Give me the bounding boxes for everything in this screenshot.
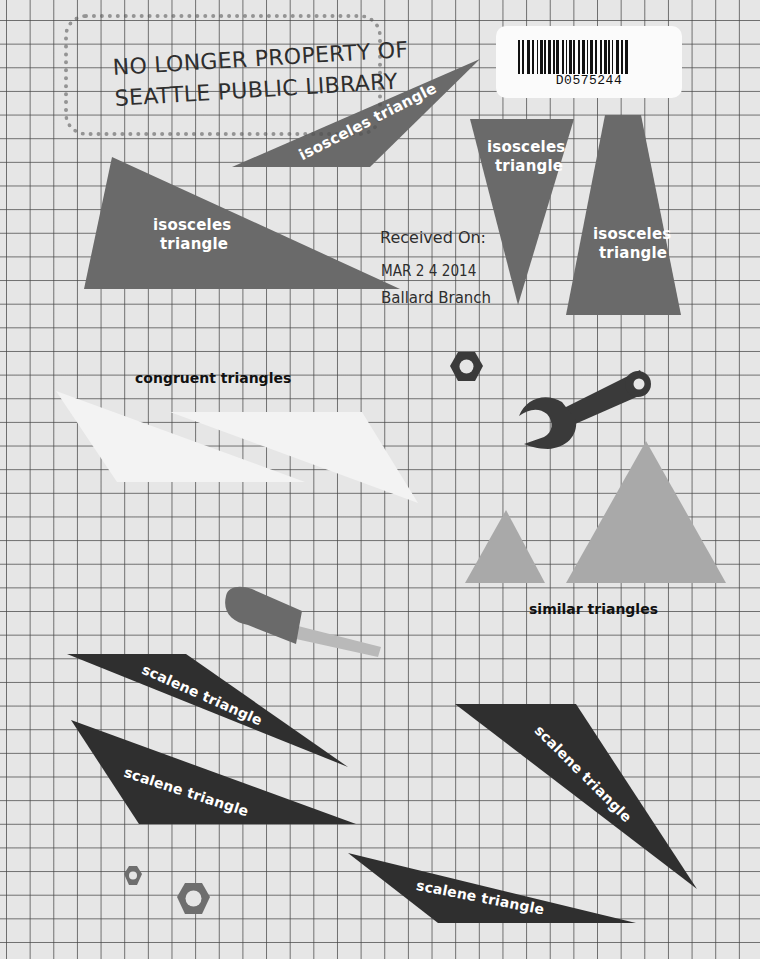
heading-congruent-triangles: congruent triangles [135, 370, 291, 386]
scalene-triangle-4 [348, 853, 636, 923]
book-cover: NO LONGER PROPERTY OF SEATTLE PUBLIC LIB… [0, 0, 760, 959]
label-isosceles-large-2: triangle [160, 235, 228, 253]
label-isosceles-large-1: isosceles [153, 216, 231, 234]
label-isosceles-tall-1: isosceles [593, 225, 671, 243]
label-isosceles-down-2: triangle [495, 157, 563, 175]
scalene-triangle-3 [455, 704, 697, 889]
cover-artwork [0, 0, 760, 959]
received-date: MAR 2 4 2014 [381, 261, 476, 280]
label-isosceles-tall-2: triangle [599, 244, 667, 262]
wrench-icon [519, 370, 651, 449]
hex-nut-medium-icon [177, 883, 210, 914]
isosceles-triangle-tall [566, 115, 681, 315]
hex-nut-small-icon [124, 866, 142, 885]
label-isosceles-down-1: isosceles [487, 138, 565, 156]
barcode-label: D0575244 [496, 26, 682, 98]
similar-triangle-small [465, 510, 545, 583]
similar-triangle-large [566, 441, 726, 583]
barcode-bars [518, 40, 628, 74]
heading-similar-triangles: similar triangles [529, 601, 658, 617]
received-on-label: Received On: [380, 228, 486, 247]
barcode-number: D0575244 [496, 73, 682, 88]
hex-nut-icon [450, 352, 483, 381]
branch-name: Ballard Branch [381, 289, 491, 307]
screwdriver-icon [225, 587, 381, 657]
isosceles-triangle-large [84, 157, 400, 289]
